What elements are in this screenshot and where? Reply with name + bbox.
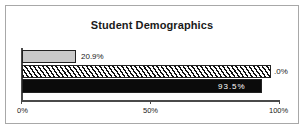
bar-label-series-1: 20.9% <box>81 52 104 61</box>
x-axis-tick-50 <box>150 100 151 104</box>
plot-area: 20.9% .0% 93.5% <box>22 48 279 100</box>
x-axis-tick-label-0: 0% <box>17 106 28 115</box>
chart-title: Student Demographics <box>0 19 304 31</box>
x-axis-tick-label-100: 100% <box>269 106 288 115</box>
chart-container: Student Demographics 0% 50% 100% 20.9% .… <box>0 0 304 130</box>
x-axis-tick-100 <box>279 100 280 104</box>
bar-series-2 <box>22 65 271 78</box>
bar-label-series-3: 93.5% <box>218 82 246 91</box>
bar-series-1 <box>22 50 76 63</box>
bar-label-series-2: .0% <box>274 67 288 76</box>
x-axis-tick-0 <box>21 100 22 104</box>
x-axis-tick-label-50: 50% <box>143 106 158 115</box>
